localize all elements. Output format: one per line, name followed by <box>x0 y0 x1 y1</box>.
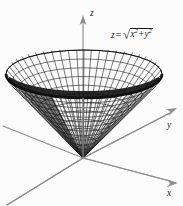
equation-annotation: z=√x2+y2 <box>111 28 153 41</box>
equation-radical: √x2+y2 <box>122 28 153 41</box>
cone-surface-mesh <box>6 50 162 158</box>
y-axis-label: y <box>166 120 172 130</box>
z-axis-label: z <box>89 8 94 18</box>
plot-canvas: z y x <box>0 0 183 206</box>
cone-surface-figure: z y x z=√x2+y2 <box>0 0 183 206</box>
cone-meridian-lines <box>6 50 162 158</box>
x-axis-positive-foreground <box>83 158 170 181</box>
x-axis-label: x <box>166 188 172 198</box>
radical-sign-icon: √ <box>123 28 130 42</box>
y-axis-positive-foreground <box>83 113 170 158</box>
equation-lhs: z <box>111 30 115 40</box>
equation-term2-exponent: 2 <box>149 27 152 33</box>
y-axis-arrowhead-icon <box>166 108 177 117</box>
radical-contents: x2+y2 <box>130 28 153 39</box>
y-axis-negative-foreground <box>7 158 83 205</box>
equation-equals-sign: = <box>116 30 121 40</box>
